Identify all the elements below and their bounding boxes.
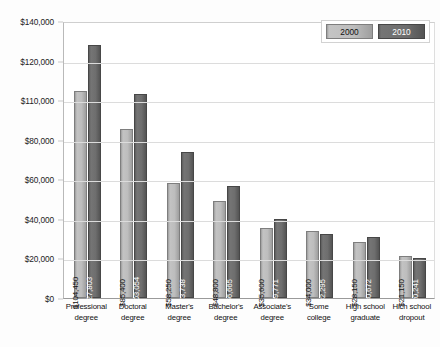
bar-group: $48,800$56,665 <box>213 23 240 298</box>
x-axis-tick-label: Bachelor'sdegree <box>203 302 250 323</box>
bar-2000[interactable]: $85,400 <box>120 129 133 298</box>
x-axis-tick-label: Hich schooldropout <box>389 302 436 323</box>
x-axis-tick-label: Somecollege <box>296 302 343 323</box>
bar-group: $58,250$73,738 <box>167 23 194 298</box>
x-axis-tick-line: degree <box>110 313 157 324</box>
x-axis-tick-line: college <box>296 313 343 324</box>
x-axis-tick-line: Master's <box>156 302 203 313</box>
x-axis-tick-line: graduate <box>342 313 389 324</box>
x-axis-tick-line: Doctoral <box>110 302 157 313</box>
legend-item-2010[interactable]: 2010 <box>378 24 425 39</box>
bar-group: $28,150$30,672 <box>353 23 380 298</box>
x-axis-tick-line: Associate's <box>249 302 296 313</box>
chart-legend: 2000 2010 <box>321 20 430 43</box>
x-axis-tick-line: High school <box>342 302 389 313</box>
x-axis-tick-line: Professional <box>63 302 110 313</box>
legend-label-2000: 2000 <box>340 27 358 37</box>
bar-group: $104,450$127,803 <box>74 23 101 298</box>
x-axis-tick-line: degree <box>249 313 296 324</box>
x-axis-tick-label: Doctoraldegree <box>110 302 157 323</box>
gridline <box>64 102 434 103</box>
bar-2010[interactable]: $32,295 <box>320 234 333 298</box>
x-axis-tick-label: Master'sdegree <box>156 302 203 323</box>
bar-chart: $140,000$120,000$110,000$80,000$60,000$4… <box>0 0 440 347</box>
y-axis-tick-label: $120,000 <box>20 57 54 67</box>
x-axis-tick-line: dropout <box>389 313 436 324</box>
plot-area: $104,450$127,803$85,400$103,054$58,250$7… <box>63 22 435 299</box>
legend-label-2010: 2010 <box>392 27 410 37</box>
gridline <box>64 260 434 261</box>
bar-group: $35,600$39,771 <box>260 23 287 298</box>
y-axis-tick-label: $40,000 <box>25 215 54 225</box>
bar-2000[interactable]: $104,450 <box>74 91 87 298</box>
x-axis-tick-line: Hich school <box>389 302 436 313</box>
bar-group: $34,000$32,295 <box>306 23 333 298</box>
gridline <box>64 221 434 222</box>
x-axis-tick-line: Bachelor's <box>203 302 250 313</box>
legend-item-2000[interactable]: 2000 <box>326 24 373 39</box>
bar-2010[interactable]: $73,738 <box>181 152 194 298</box>
y-axis-tick-label: $60,000 <box>25 175 54 185</box>
y-axis-tick-label: $110,000 <box>21 96 54 106</box>
bar-2010[interactable]: $20,241 <box>413 258 426 298</box>
x-axis-tick-label: Professionaldegree <box>63 302 110 323</box>
x-axis-tick-line: Some <box>296 302 343 313</box>
y-axis-tick-label: $140,000 <box>20 17 54 27</box>
x-axis-tick-line: degree <box>156 313 203 324</box>
bar-2010[interactable]: $39,771 <box>274 219 287 298</box>
bar-2010[interactable]: $30,672 <box>367 237 380 298</box>
bars-layer: $104,450$127,803$85,400$103,054$58,250$7… <box>64 23 434 298</box>
gridline <box>64 181 434 182</box>
x-axis-tick-label: High schoolgraduate <box>342 302 389 323</box>
gridline <box>64 63 434 64</box>
x-axis-tick-label: Associate'sdegree <box>249 302 296 323</box>
y-axis-tick-label: $80,000 <box>25 136 54 146</box>
bar-group: $85,400$103,054 <box>120 23 147 298</box>
x-axis-tick-line: degree <box>203 313 250 324</box>
y-axis-tick-label: $0 <box>45 294 54 304</box>
y-axis-tick-label: $20,000 <box>25 254 54 264</box>
bar-group: $21,150$20,241 <box>399 23 426 298</box>
bar-2010[interactable]: $56,665 <box>227 186 240 298</box>
x-axis: ProfessionaldegreeDoctoraldegreeMaster's… <box>63 302 435 347</box>
y-axis: $140,000$120,000$110,000$80,000$60,000$4… <box>0 0 63 347</box>
bar-2010[interactable]: $103,054 <box>134 94 147 298</box>
gridline <box>64 142 434 143</box>
x-axis-tick-line: degree <box>63 313 110 324</box>
